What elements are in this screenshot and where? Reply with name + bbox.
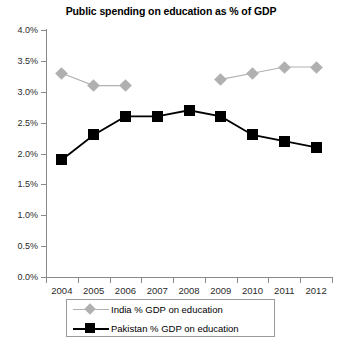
chart-title: Public spending on education as % of GDP xyxy=(0,5,342,17)
y-axis-tick-label: 3.0% xyxy=(0,87,38,97)
diamond-marker-icon xyxy=(71,303,111,317)
data-point-marker xyxy=(247,129,258,140)
y-axis-tick-label: 1.5% xyxy=(0,179,38,189)
y-axis-tick-label: 2.5% xyxy=(0,118,38,128)
y-axis-tick xyxy=(41,154,46,155)
legend-item-india: India % GDP on education xyxy=(67,300,276,319)
data-point-marker xyxy=(88,129,99,140)
y-axis-tick-label: 0.0% xyxy=(0,272,38,282)
y-axis-tick-label: 3.5% xyxy=(0,56,38,66)
data-point-marker xyxy=(87,79,100,92)
y-axis-tick xyxy=(41,30,46,31)
x-axis-tick xyxy=(237,278,238,283)
y-axis-tick-label: 4.0% xyxy=(0,25,38,35)
data-point-marker xyxy=(120,111,131,122)
y-axis-tick xyxy=(41,123,46,124)
data-point-marker xyxy=(311,142,322,153)
y-axis-tick xyxy=(41,215,46,216)
data-point-marker xyxy=(56,154,67,165)
x-axis-tick xyxy=(141,278,142,283)
x-axis-tick xyxy=(78,278,79,283)
legend-label-india: India % GDP on education xyxy=(111,304,223,315)
chart-legend: India % GDP on education Pakistan % GDP … xyxy=(66,299,275,337)
x-axis-tick xyxy=(300,278,301,283)
data-point-marker xyxy=(56,67,69,80)
x-axis-tick xyxy=(173,278,174,283)
data-point-marker xyxy=(310,61,323,74)
data-point-marker xyxy=(279,136,290,147)
data-point-marker xyxy=(246,67,259,80)
x-axis-tick xyxy=(110,278,111,283)
data-point-marker xyxy=(152,111,163,122)
x-axis-tick xyxy=(46,278,47,283)
legend-item-pakistan: Pakistan % GDP on education xyxy=(67,319,276,338)
square-marker-icon xyxy=(71,322,111,336)
x-axis-tick xyxy=(268,278,269,283)
y-axis-line xyxy=(46,29,47,278)
data-point-marker xyxy=(184,105,195,116)
legend-label-pakistan: Pakistan % GDP on education xyxy=(111,323,239,334)
y-axis-tick-label: 2.0% xyxy=(0,149,38,159)
chart-container: Public spending on education as % of GDP… xyxy=(0,0,342,349)
data-point-marker xyxy=(214,73,227,86)
data-point-marker xyxy=(278,61,291,74)
y-axis-tick-label: 0.5% xyxy=(0,241,38,251)
data-point-marker xyxy=(119,79,132,92)
x-axis-tick xyxy=(332,278,333,283)
x-axis-tick-label: 2012 xyxy=(296,285,336,296)
x-axis-tick xyxy=(205,278,206,283)
x-axis-line xyxy=(46,277,333,278)
data-point-marker xyxy=(215,111,226,122)
y-axis-tick xyxy=(41,92,46,93)
y-axis-tick xyxy=(41,61,46,62)
series-lines xyxy=(0,0,342,349)
y-axis-tick xyxy=(41,246,46,247)
y-axis-tick-label: 1.0% xyxy=(0,210,38,220)
y-axis-tick xyxy=(41,184,46,185)
